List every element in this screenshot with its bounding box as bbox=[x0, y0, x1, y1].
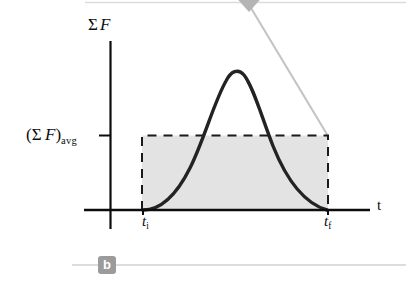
avg-label-variable: F bbox=[45, 125, 55, 144]
avg-label-sigma-symbol: Σ bbox=[32, 125, 42, 144]
avg-label-subscript: avg bbox=[61, 135, 77, 146]
y-axis-variable: F bbox=[100, 15, 110, 34]
figure-panel-b: ΣF (Σ F)avg ti tf t b bbox=[0, 0, 406, 289]
y-axis-label: ΣF bbox=[88, 16, 110, 33]
t-final-label: tf bbox=[324, 214, 331, 229]
t-initial-subscript: i bbox=[146, 221, 149, 231]
y-axis-sigma-symbol: Σ bbox=[88, 15, 98, 34]
average-force-axis-label: (Σ F)avg bbox=[26, 126, 77, 143]
t-final-subscript: f bbox=[328, 221, 331, 231]
t-initial-label: ti bbox=[142, 214, 149, 229]
panel-letter-badge: b bbox=[98, 256, 116, 274]
x-axis-label: t bbox=[377, 198, 381, 213]
